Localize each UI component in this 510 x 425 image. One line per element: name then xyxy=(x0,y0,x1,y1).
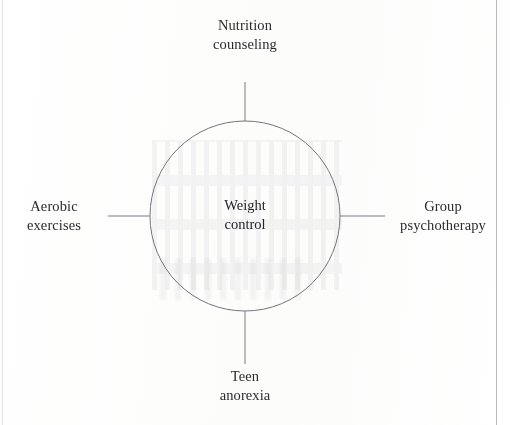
center-node-label: Weight control xyxy=(185,196,305,234)
center-node-label-line2: control xyxy=(185,215,305,234)
node-label-bottom-line2: anorexia xyxy=(155,386,335,405)
node-label-top-line2: counseling xyxy=(155,35,335,54)
node-label-nutrition-counseling: Nutrition counseling xyxy=(155,16,335,54)
center-node-label-line1: Weight xyxy=(185,196,305,215)
node-label-teen-anorexia: Teen anorexia xyxy=(155,367,335,405)
node-label-top-line1: Nutrition xyxy=(155,16,335,35)
node-label-bottom-line1: Teen xyxy=(155,367,335,386)
node-label-right-line1: Group xyxy=(390,197,496,216)
scanned-page: Weight control Nutrition counseling Grou… xyxy=(0,0,510,425)
node-label-group-psychotherapy: Group psychotherapy xyxy=(390,197,496,235)
node-label-aerobic-exercises: Aerobic exercises xyxy=(2,197,106,235)
node-label-left-line2: exercises xyxy=(2,216,106,235)
node-label-left-line1: Aerobic xyxy=(2,197,106,216)
node-label-right-line2: psychotherapy xyxy=(390,216,496,235)
